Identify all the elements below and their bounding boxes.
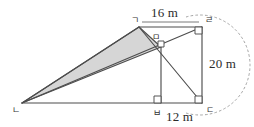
vertex-label-giyeok: ㄱ — [131, 16, 139, 25]
dimension-label-top: 16 m — [151, 6, 178, 19]
dimension-label-bottom: 12 m — [166, 110, 193, 123]
right-angle-marker-bieup — [154, 96, 161, 103]
segment-giyeok-digeut — [139, 27, 202, 103]
right-angle-marker-digeut — [195, 96, 202, 103]
shaded-triangle-region — [22, 27, 161, 103]
vertex-label-digeut: ㄷ — [206, 106, 214, 115]
segment-nieun-rieul — [22, 27, 202, 103]
vertex-label-nieun: ㄴ — [12, 106, 20, 115]
right-angle-marker-rieul — [195, 27, 202, 34]
vertex-label-rieul: ㄹ — [205, 16, 213, 25]
vertex-label-bieup: ㅂ — [153, 109, 161, 118]
segment-nieun-giyeok — [22, 27, 139, 103]
vertex-label-mieum: ㅁ — [152, 33, 160, 42]
geometry-figure: 16 m 20 m 12 m ㄱ ㄹ ㄷ ㄴ ㅂ ㅁ — [0, 0, 254, 127]
dimension-label-right: 20 m — [209, 57, 236, 70]
